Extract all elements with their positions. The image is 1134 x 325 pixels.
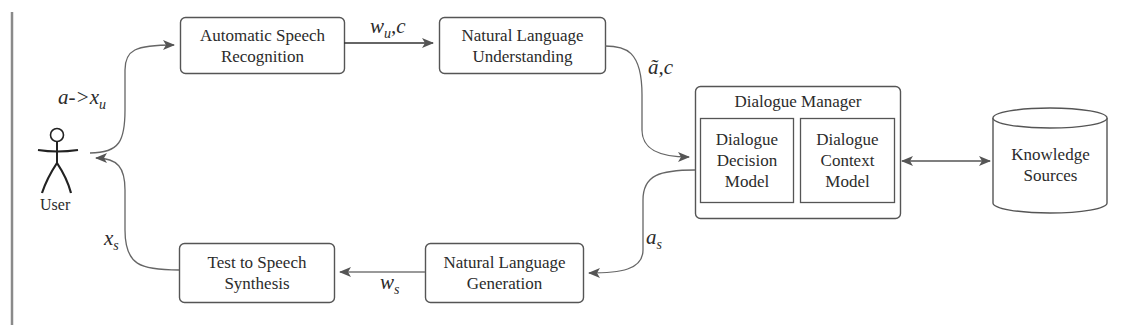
- edge-label-nlu-dm: ã,c: [648, 55, 673, 80]
- context-line1: Dialogue: [816, 129, 878, 150]
- edge-label-base: ã,c: [648, 55, 673, 79]
- edge-label-tts-user: xs: [104, 226, 119, 254]
- user-label: User: [40, 196, 70, 214]
- edge-label-tail: ,c: [391, 14, 406, 38]
- decision-line1: Dialogue: [716, 129, 778, 150]
- context-line2: Context: [816, 150, 878, 171]
- edge-label-sub: u: [99, 97, 106, 112]
- nlg-line2: Generation: [443, 273, 565, 294]
- ks-line1: Knowledge: [1011, 144, 1089, 165]
- edge-label-asr-nlu: wu,c: [370, 14, 406, 42]
- tts-line2: Synthesis: [208, 273, 307, 294]
- asr-label-line1: Automatic Speech: [200, 25, 325, 46]
- decision-line2: Decision: [716, 150, 778, 171]
- nlu-label-line2: Understanding: [461, 46, 583, 67]
- nlg-label: Natural LanguageGeneration: [426, 244, 583, 302]
- user-icon: [38, 129, 78, 194]
- edge-label-dm-nlg: as: [646, 225, 662, 253]
- edge-label-base: w: [370, 14, 384, 38]
- decision-model-label: DialogueDecisionModel: [701, 119, 793, 202]
- asr-label-line2: Recognition: [200, 46, 325, 67]
- ks-line2: Sources: [1011, 165, 1089, 186]
- asr-label: Automatic SpeechRecognition: [181, 18, 344, 73]
- edge-label-sub: s: [113, 238, 118, 253]
- edge-label-nlg-tts: ws: [380, 270, 399, 298]
- edge-label-base: a->x: [58, 85, 99, 109]
- edge-label-user-asr: a->xu: [58, 85, 106, 113]
- decision-line3: Model: [716, 171, 778, 192]
- edge-label-sub: s: [657, 237, 662, 252]
- nlg-line1: Natural Language: [443, 252, 565, 273]
- knowledge-sources-label: KnowledgeSources: [994, 140, 1107, 190]
- context-model-label: DialogueContextModel: [801, 119, 894, 202]
- edge-label-base: a: [646, 225, 657, 249]
- nlu-label-line1: Natural Language: [461, 25, 583, 46]
- edge-nlu-to-dm: [605, 46, 689, 157]
- tts-label: Test to SpeechSynthesis: [180, 244, 334, 302]
- edge-label-sub: s: [394, 282, 399, 297]
- tts-line1: Test to Speech: [208, 252, 307, 273]
- nlu-label: Natural LanguageUnderstanding: [440, 18, 605, 73]
- edge-label-sub: u: [384, 26, 391, 41]
- dm-title: Dialogue Manager: [696, 92, 900, 112]
- edge-label-base: w: [380, 270, 394, 294]
- context-line3: Model: [816, 171, 878, 192]
- edge-label-base: x: [104, 226, 113, 250]
- edge-dm-to-nlg: [589, 170, 695, 273]
